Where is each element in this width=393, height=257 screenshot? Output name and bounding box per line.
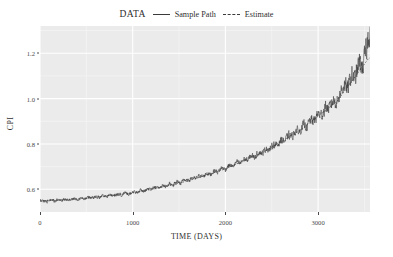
plot-panel	[40, 26, 370, 212]
legend-entry-sample-path[interactable]: Sample Path	[153, 10, 216, 19]
legend-entry-estimate[interactable]: Estimate	[223, 10, 274, 19]
series-line-estimate	[40, 58, 370, 201]
x-tick-mark	[40, 212, 41, 215]
y-tick-mark	[37, 53, 40, 54]
y-tick-mark	[37, 189, 40, 190]
x-axis-label: TIME (DAYS)	[0, 232, 393, 241]
y-tick-label: 1.0	[27, 95, 35, 102]
x-tick-label: 3000	[311, 219, 324, 226]
x-tick-label: 2000	[219, 219, 232, 226]
x-tick-mark	[225, 212, 226, 215]
chart-legend: DATA Sample Path Estimate	[0, 9, 393, 19]
y-tick-label: 1.2	[27, 50, 35, 57]
grid-minor-lines	[40, 26, 370, 212]
y-tick-mark	[37, 98, 40, 99]
chart-root: DATA Sample Path Estimate 0.60.81.01.2 0…	[0, 0, 393, 257]
y-axis-label: CPI	[6, 101, 15, 147]
legend-key-dotted-line-icon	[223, 10, 240, 19]
grid-major-lines	[40, 26, 370, 212]
y-tick-label: 0.8	[27, 140, 35, 147]
legend-title: DATA	[120, 9, 146, 19]
plot-svg	[40, 26, 370, 212]
x-tick-label: 1000	[126, 219, 139, 226]
x-axis-ticks: 0100020003000	[0, 212, 393, 232]
legend-label-estimate: Estimate	[245, 10, 274, 19]
x-tick-mark	[133, 212, 134, 215]
legend-label-sample-path: Sample Path	[175, 10, 216, 19]
x-tick-label: 0	[38, 219, 41, 226]
x-tick-mark	[318, 212, 319, 215]
legend-key-solid-line-icon	[153, 10, 170, 19]
y-tick-label: 0.6	[27, 186, 35, 193]
y-tick-mark	[37, 143, 40, 144]
